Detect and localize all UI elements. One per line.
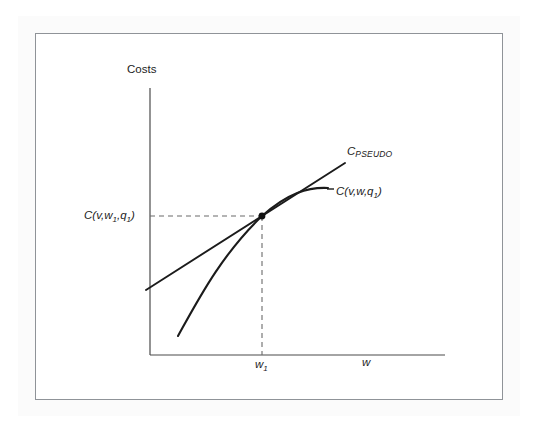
y-tick-middle: ,q (117, 209, 127, 221)
pseudo-cost-line (146, 163, 345, 290)
x-axis-title: w (362, 357, 370, 369)
figure-page: Costs C(v,w1,q1) w1 w CPSEUDO C(v,w,q1) (0, 0, 538, 432)
cost-curve-label-close-paren: ) (378, 185, 382, 197)
tangency-point-marker (259, 213, 266, 220)
y-tick-subscript-2: 1 (127, 215, 131, 224)
cost-function-chart (0, 0, 538, 432)
y-axis-title: Costs (127, 64, 156, 76)
cost-curve-label-base: C(v,w,q (336, 185, 374, 197)
y-tick-close-paren: ) (131, 209, 135, 221)
cost-curve-label-subscript: 1 (374, 191, 378, 200)
y-tick-subscript-1: 1 (113, 215, 117, 224)
x-axis-tick-label: w1 (255, 359, 268, 371)
y-axis-tick-label: C(v,w1,q1) (84, 210, 135, 222)
cost-function-curve (178, 188, 328, 336)
cost-function-curve-label: C(v,w,q1) (336, 186, 382, 198)
pseudo-cost-curve-label: CPSEUDO (347, 146, 392, 158)
pseudo-label-subscript: PSEUDO (355, 149, 392, 159)
x-tick-subscript: 1 (263, 364, 267, 373)
y-tick-base: C(v,w (84, 209, 113, 221)
